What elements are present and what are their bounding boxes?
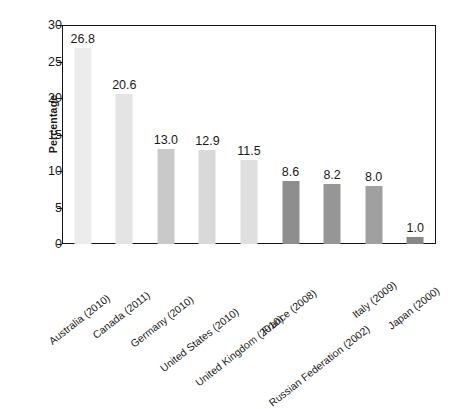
y-axis-tick-mark [57,244,62,245]
bar[interactable] [74,48,91,244]
bar-group: 20.6 [104,25,146,244]
bar[interactable] [324,184,341,244]
bar-value-label: 8.2 [323,168,340,182]
bar-value-label: 8.0 [365,170,382,184]
bar-value-label: 13.0 [154,133,178,147]
bar-group: 8.0 [353,25,395,244]
bar[interactable] [240,160,257,244]
bar-value-label: 8.6 [282,165,299,179]
bar[interactable] [199,150,216,244]
bars-container: 26.820.613.012.911.58.68.28.01.0 [62,25,436,244]
bar-group: 12.9 [187,25,229,244]
bar[interactable] [365,186,382,244]
bar-group: 13.0 [145,25,187,244]
bar-value-label: 1.0 [407,221,424,235]
bar-group: 26.8 [62,25,104,244]
bar-group: 11.5 [228,25,270,244]
bar[interactable] [407,237,424,244]
bar-group: 8.2 [311,25,353,244]
y-axis-ticks: 051015202530 [30,0,62,357]
x-axis-category-label: Russian Federation (2002) [266,323,371,409]
bar-group: 8.6 [270,25,312,244]
bar-group: 1.0 [394,25,436,244]
bar-value-label: 26.8 [71,32,95,46]
bar[interactable] [116,94,133,244]
bar[interactable] [282,181,299,244]
x-axis-labels: Australia (2010)Canada (2011)Germany (20… [62,246,436,357]
x-axis-category-label: Italy (2009) [349,278,398,320]
x-axis-category-label: France (2008) [259,287,318,337]
bar-value-label: 11.5 [237,144,260,158]
bar-value-label: 12.9 [195,134,219,148]
bar[interactable] [157,149,174,244]
bar-value-label: 20.6 [112,78,136,92]
